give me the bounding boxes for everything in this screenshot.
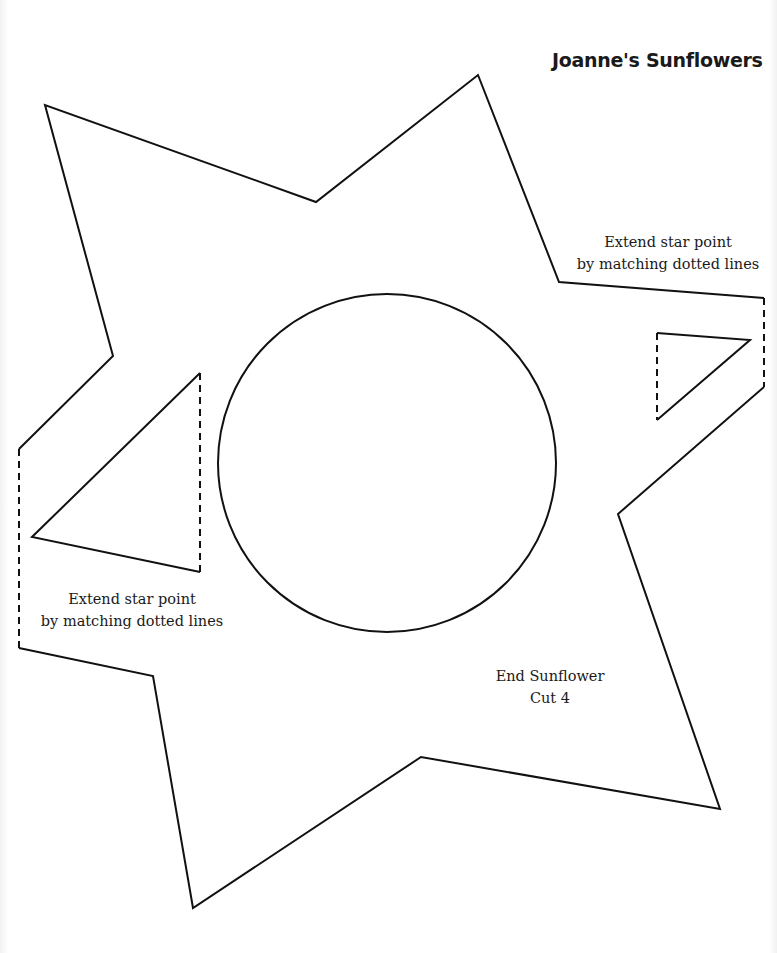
piece-quantity: Cut 4: [470, 687, 630, 709]
instruction-right-line2: by matching dotted lines: [568, 253, 768, 275]
sunflower-pattern: [0, 0, 777, 953]
center-circle-icon: [218, 294, 556, 632]
right-star-point-extension: [657, 333, 750, 420]
instruction-left-line2: by matching dotted lines: [32, 610, 232, 632]
instruction-left: Extend star point by matching dotted lin…: [32, 588, 232, 632]
instruction-right: Extend star point by matching dotted lin…: [568, 231, 768, 275]
star-outline-icon: [19, 75, 764, 908]
piece-label: End Sunflower Cut 4: [470, 665, 630, 709]
page-title: Joanne's Sunflowers: [552, 49, 763, 71]
piece-name: End Sunflower: [470, 665, 630, 687]
instruction-right-line1: Extend star point: [568, 231, 768, 253]
instruction-left-line1: Extend star point: [32, 588, 232, 610]
left-star-point-extension: [32, 373, 200, 572]
